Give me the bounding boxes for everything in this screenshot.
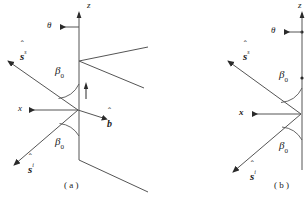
panel-b-z-axis-arrowhead (300, 11, 305, 18)
panel-a-scattered-hat-icon: ˆ (21, 40, 24, 49)
panel-a-incident-ray (14, 110, 78, 165)
panel-a-b-symbol: b (107, 118, 112, 129)
panel-b-z-axis-label: z (298, 1, 302, 10)
panel-a-caption: ( a ) (64, 181, 79, 190)
panel-b-beta-lower-label: β0 (279, 136, 288, 155)
panel-a-b-hat-icon: ˆ (108, 107, 111, 116)
panel-a-scattered-superscript: s (24, 49, 26, 55)
panel-a-z-axis-arrowhead (77, 11, 82, 18)
panel-b-scattered-superscript: s (247, 49, 249, 55)
panel-a-beta-lower-subscript: 0 (60, 143, 64, 151)
panel-a-beta-upper-label: β0 (55, 61, 64, 80)
panel-a-incident-superscript: i (32, 162, 34, 168)
panel-a-theta-label: θ (47, 21, 51, 30)
panel-b-scattered-vector-label: ˆ s s (243, 47, 250, 63)
panel-b-beta-upper-arc (281, 88, 302, 103)
panel-b-scattered-symbol: s (243, 50, 247, 62)
panel-a-b-vector-label: ˆ b (107, 114, 112, 130)
panel-a-b-vector-ray (78, 110, 103, 118)
panel-a-incident-hat-icon: ˆ (29, 153, 32, 162)
panel-b-incident-vector-label: ˆ s i (250, 167, 256, 183)
panel-b-incident-symbol: s (250, 170, 254, 182)
panel-b-theta-label: θ (271, 26, 275, 35)
panel-b-incident-ray (233, 114, 301, 172)
panel-a-x-axis-label: x (18, 104, 22, 113)
panel-a-beta-upper-arc (59, 84, 80, 99)
panel-b-scattered-hat-icon: ˆ (244, 40, 247, 49)
panel-a-cone-lower-line (79, 61, 144, 88)
panel-b-axis-tick-mid (300, 76, 303, 79)
panel-a-z-axis-label: z (87, 1, 91, 10)
panel-b-beta-lower-subscript: 0 (284, 147, 288, 155)
panel-a-scattered-symbol: s (20, 50, 24, 62)
panel-a-normal-arrowhead (84, 82, 88, 89)
figure-vector-graphics (0, 0, 308, 200)
panel-a-incident-vector-label: ˆ s i (28, 160, 34, 176)
panel-b-beta-upper-label: β0 (279, 65, 288, 84)
panel-a-plane-bottom-edge (79, 160, 148, 192)
panel-b-graphics (228, 11, 304, 172)
panel-b-x-axis-label: x (239, 108, 244, 117)
panel-b-caption: ( b ) (274, 181, 289, 190)
panel-b-incident-hat-icon: ˆ (251, 160, 254, 169)
panel-a-incident-symbol: s (28, 163, 32, 175)
panel-a-cone-upper-line (79, 47, 148, 61)
panel-a-beta-upper-subscript: 0 (60, 72, 64, 80)
panel-b-beta-upper-subscript: 0 (284, 76, 288, 84)
panel-b-incident-superscript: i (254, 169, 256, 175)
figure-root: z θ β0 β0 ˆ s s ˆ s i x ˆ b ( a ) z θ β0… (0, 0, 308, 200)
panel-a-beta-lower-label: β0 (55, 132, 64, 151)
panel-a-scattered-vector-label: ˆ s s (20, 47, 27, 63)
